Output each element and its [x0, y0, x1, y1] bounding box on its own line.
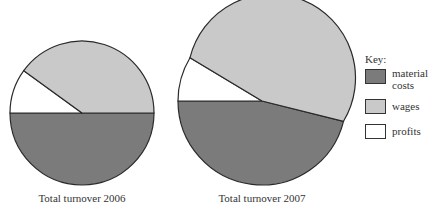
- legend-label-line1: material: [392, 67, 428, 79]
- swatch-wages: [365, 99, 386, 114]
- legend-label-material-costs: material costs: [392, 67, 428, 91]
- pie-2006: [10, 41, 154, 185]
- legend-label-profits: profits: [392, 125, 421, 137]
- legend-title: Key:: [365, 53, 386, 65]
- slice-material-costs-2006: [10, 113, 154, 185]
- swatch-material-costs: [365, 69, 386, 84]
- legend-label-line2: costs: [392, 79, 428, 91]
- pie-2007: [178, 0, 356, 185]
- swatch-profits: [365, 124, 386, 139]
- legend-label-wages: wages: [392, 100, 420, 112]
- caption-2006: Total turnover 2006: [38, 192, 125, 204]
- caption-2007: Total turnover 2007: [218, 192, 305, 204]
